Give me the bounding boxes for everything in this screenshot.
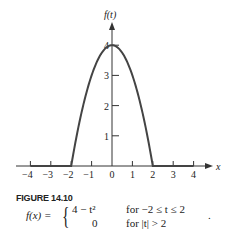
svg-text:−4: −4: [22, 169, 33, 180]
svg-text:−1: −1: [83, 169, 94, 180]
y-axis-arrow-icon: [109, 22, 115, 30]
svg-text:2: 2: [104, 101, 109, 112]
case1-expr: 4 − t²: [72, 203, 96, 215]
case2-condition: for |t| > 2: [126, 217, 166, 229]
svg-text:−3: −3: [42, 169, 53, 180]
svg-text:3: 3: [171, 169, 176, 180]
chart: x f(t) −4−3−2−101234 1234: [0, 0, 231, 240]
svg-text:1: 1: [130, 169, 135, 180]
svg-text:0: 0: [110, 169, 115, 180]
y-axis-label: f(t): [104, 9, 117, 21]
svg-text:4: 4: [191, 169, 196, 180]
x-axis-label: x: [215, 161, 221, 172]
formula-lhs: f(x) =: [26, 209, 51, 221]
x-axis-arrow-icon: [205, 163, 213, 169]
case1-condition: for −2 ≤ t ≤ 2: [126, 203, 185, 215]
brace: {: [62, 201, 69, 231]
svg-text:−2: −2: [63, 169, 74, 180]
case2-expr: 0: [92, 217, 98, 229]
x-ticks: −4−3−2−101234: [22, 161, 196, 180]
svg-text:3: 3: [104, 70, 109, 81]
svg-text:1: 1: [104, 131, 109, 142]
trailing-period: .: [208, 209, 211, 221]
svg-text:2: 2: [150, 169, 155, 180]
